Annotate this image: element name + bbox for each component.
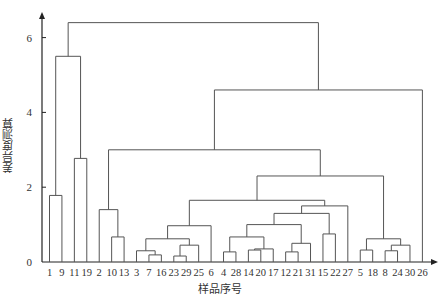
x-axis-label: 样品序号 [0, 280, 439, 296]
dendrogram-link [174, 256, 186, 262]
leaf-label: 27 [343, 267, 354, 278]
dendrogram-link [292, 243, 311, 262]
leaf-label: 23 [169, 267, 180, 278]
y-tick-label: 2 [27, 181, 33, 193]
dendrogram-link [149, 255, 161, 262]
dendrogram-link [247, 225, 301, 244]
leaf-label: 7 [146, 267, 151, 278]
leaf-label: 31 [305, 267, 316, 278]
dendrogram-link [99, 210, 118, 262]
dendrogram-link [366, 239, 400, 250]
dendrogram-link [248, 250, 260, 262]
dendrogram-link [391, 245, 410, 262]
dendrogram-link [257, 176, 384, 239]
leaf-label: 11 [69, 267, 79, 278]
dendrogram-chart: 0246 19111921013371623292564281420171221… [0, 0, 439, 306]
dendrogram-link [74, 158, 86, 262]
leaf-label: 30 [405, 267, 416, 278]
x-axis-arrow-icon [431, 259, 438, 265]
leaf-label: 18 [367, 267, 378, 278]
leaf-label: 3 [134, 267, 139, 278]
leaf-label: 2 [97, 267, 102, 278]
leaf-label: 25 [193, 267, 204, 278]
y-tick-label: 6 [27, 32, 33, 44]
y-axis-arrow-icon [39, 12, 45, 19]
dendrogram-link [255, 249, 274, 262]
leaf-label: 19 [82, 267, 93, 278]
leaf-label: 1 [47, 267, 52, 278]
leaf-label: 17 [268, 267, 279, 278]
leaf-label: 22 [330, 267, 341, 278]
leaf-label: 20 [256, 267, 267, 278]
leaf-label: 26 [417, 267, 428, 278]
dendrogram-link [224, 252, 236, 262]
leaf-label: 14 [243, 267, 254, 278]
y-axis-label: 差异度测算 [3, 118, 17, 173]
dendrogram-link [112, 237, 124, 262]
dendrogram-links [50, 23, 423, 262]
dendrogram-link [323, 234, 335, 262]
leaf-label: 4 [221, 267, 227, 278]
leaf-label: 9 [59, 267, 64, 278]
leaf-label: 21 [293, 267, 304, 278]
dendrogram-link [68, 23, 318, 90]
dendrogram-link [180, 245, 199, 262]
y-tick-label: 4 [27, 106, 33, 118]
leaf-label: 16 [156, 267, 167, 278]
leaf-label: 28 [231, 267, 242, 278]
leaf-label: 10 [106, 267, 117, 278]
leaf-label: 24 [392, 267, 403, 278]
y-ticks: 0246 [27, 32, 47, 268]
leaf-label: 6 [208, 267, 213, 278]
y-tick-label: 0 [27, 256, 33, 268]
leaf-label: 5 [358, 267, 363, 278]
dendrogram-link [385, 251, 397, 262]
leaf-label: 8 [382, 267, 387, 278]
dendrogram-link [56, 56, 81, 195]
leaf-label: 12 [280, 267, 291, 278]
dendrogram-link [50, 195, 62, 262]
dendrogram-link [286, 252, 298, 262]
leaf-label: 29 [181, 267, 192, 278]
dendrogram-link [360, 250, 372, 262]
x-tick-labels: 1911192101337162329256428142017122131152… [47, 267, 428, 278]
leaf-label: 15 [318, 267, 329, 278]
leaf-label: 13 [119, 267, 130, 278]
dendrogram-link [137, 251, 156, 262]
